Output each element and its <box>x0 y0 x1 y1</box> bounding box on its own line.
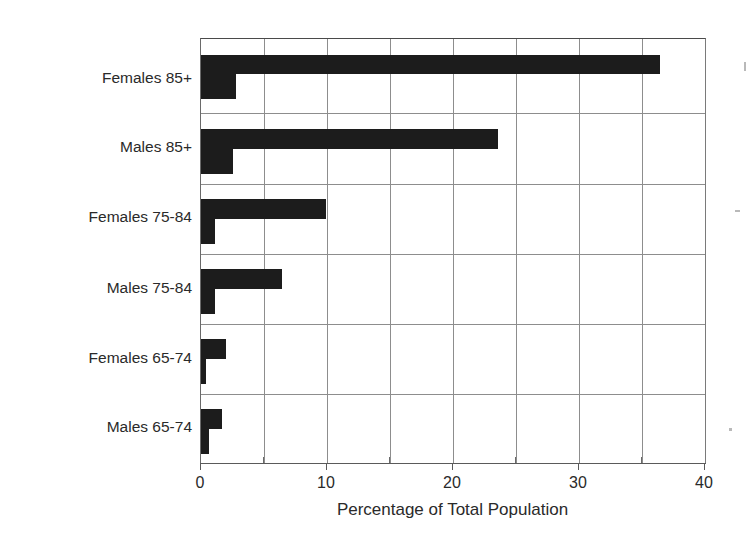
bar-females-85plus-series-1 <box>201 55 660 74</box>
gridline-vertical-10 <box>327 39 328 464</box>
gridline-horizontal-3 <box>201 254 705 255</box>
x-tick-label-20: 20 <box>422 474 482 492</box>
bar-females-75-84-series-1 <box>201 199 326 219</box>
x-tick-minor-15 <box>389 457 390 463</box>
scan-speck-1 <box>744 62 746 71</box>
y-tick-label-males-65-74: Males 65-74 <box>12 418 192 436</box>
bar-females-85plus-series-2 <box>201 74 236 99</box>
plot-area <box>200 38 706 464</box>
x-tick-10 <box>326 463 327 470</box>
gridline-vertical-20 <box>453 39 454 464</box>
gridline-horizontal-5 <box>201 394 705 395</box>
x-tick-label-10: 10 <box>296 474 356 492</box>
gridline-vertical-30 <box>579 39 580 464</box>
x-axis-title: Percentage of Total Population <box>200 500 705 520</box>
gridline-vertical-25 <box>516 39 517 464</box>
gridline-vertical-5 <box>264 39 265 464</box>
x-tick-40 <box>704 463 705 470</box>
gridline-vertical-15 <box>390 39 391 464</box>
x-tick-label-0: 0 <box>170 474 230 492</box>
bar-males-65-74-series-2 <box>201 429 209 454</box>
bar-females-75-84-series-2 <box>201 219 215 244</box>
x-tick-minor-25 <box>515 457 516 463</box>
bar-males-75-84-series-1 <box>201 269 282 289</box>
x-tick-label-40: 40 <box>674 474 734 492</box>
scan-speck-3 <box>729 428 732 431</box>
gridline-horizontal-2 <box>201 184 705 185</box>
y-tick-label-females-85plus: Females 85+ <box>12 69 192 87</box>
bar-females-65-74-series-2 <box>201 359 206 384</box>
bar-females-65-74-series-1 <box>201 339 226 359</box>
gridline-horizontal-4 <box>201 324 705 325</box>
x-tick-minor-5 <box>263 457 264 463</box>
y-axis-tick-labels: Females 85+ Males 85+ Females 75-84 Male… <box>10 0 192 558</box>
gridline-horizontal-1 <box>201 113 705 114</box>
x-tick-label-30: 30 <box>548 474 608 492</box>
bar-males-85plus-series-1 <box>201 129 498 149</box>
scan-speck-2 <box>735 210 740 212</box>
bar-chart-figure: Gender and Age Group Females 85+ Males 8… <box>0 0 753 558</box>
y-tick-label-males-75-84: Males 75-84 <box>12 279 192 297</box>
bar-males-85plus-series-2 <box>201 149 233 174</box>
y-tick-label-males-85plus: Males 85+ <box>12 138 192 156</box>
bar-males-65-74-series-1 <box>201 409 222 429</box>
bar-males-75-84-series-2 <box>201 289 215 314</box>
gridline-vertical-35 <box>642 39 643 464</box>
y-tick-label-females-75-84: Females 75-84 <box>12 208 192 226</box>
y-tick-label-females-65-74: Females 65-74 <box>12 349 192 367</box>
x-axis-spine <box>200 463 706 464</box>
x-tick-30 <box>578 463 579 470</box>
x-tick-20 <box>452 463 453 470</box>
x-tick-0 <box>200 463 201 470</box>
x-tick-minor-35 <box>641 457 642 463</box>
